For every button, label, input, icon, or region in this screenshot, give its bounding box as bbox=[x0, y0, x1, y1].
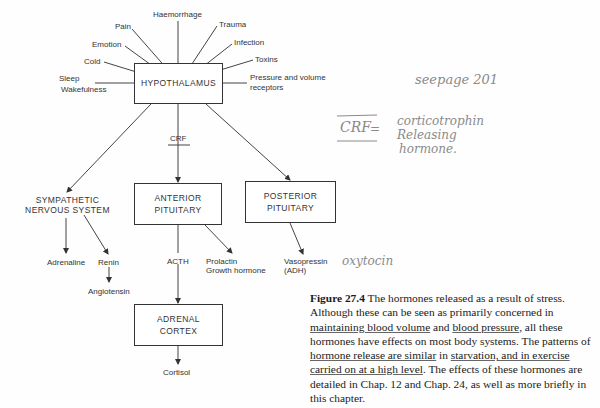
anterior-line2: PITUITARY bbox=[134, 204, 222, 216]
stressor-emotion: Emotion bbox=[92, 39, 121, 50]
caption-underline-3: hormone release are similar bbox=[310, 349, 436, 361]
handwritten-crf-abbrev: CRF bbox=[340, 121, 371, 134]
anterior-pituitary-label: ANTERIOR PITUITARY bbox=[134, 192, 222, 216]
output-adh: (ADH) bbox=[284, 265, 306, 276]
caption-text-4: in bbox=[436, 349, 451, 361]
stressor-infection: Infection bbox=[234, 37, 264, 48]
handwritten-crf-def-line1: corticotrophin bbox=[397, 115, 484, 128]
stressor-toxins: Toxins bbox=[255, 54, 278, 65]
posterior-pituitary-label: POSTERIOR PITUITARY bbox=[245, 190, 336, 214]
stressor-trauma: Trauma bbox=[219, 19, 246, 30]
adrenal-cortex-label: ADRENAL CORTEX bbox=[134, 313, 223, 337]
output-cortisol: Cortisol bbox=[163, 367, 190, 378]
output-growth-hormone: Growth hormone bbox=[206, 265, 266, 276]
caption-text-2: and bbox=[430, 321, 452, 333]
handwritten-oxytocin: oxytocin bbox=[342, 255, 393, 268]
handwritten-crf-def-line2: Releasing bbox=[397, 129, 457, 142]
stressor-cold: Cold bbox=[84, 56, 100, 67]
output-adrenaline: Adrenaline bbox=[47, 257, 85, 268]
output-angiotensin: Angiotensin bbox=[88, 286, 130, 297]
figure-label: Figure 27.4 bbox=[310, 292, 365, 304]
anterior-line1: ANTERIOR bbox=[134, 192, 222, 204]
sympathetic-line2: NERVOUS SYSTEM bbox=[20, 204, 115, 216]
stressor-sleep: Sleep bbox=[59, 73, 79, 84]
handwritten-crf-dash: = bbox=[370, 123, 380, 136]
posterior-line1: POSTERIOR bbox=[245, 190, 336, 202]
stressor-haemorrhage: Haemorrhage bbox=[153, 9, 202, 20]
figure-caption: Figure 27.4 The hormones released as a r… bbox=[310, 291, 600, 405]
stressor-receptors: receptors bbox=[250, 82, 283, 93]
crf-label: CRF bbox=[170, 133, 186, 144]
adrenal-line2: CORTEX bbox=[134, 325, 223, 337]
hypothalamus-label: HYPOTHALAMUS bbox=[134, 77, 223, 89]
textbook-page: Haemorrhage Pain Trauma Emotion Infectio… bbox=[0, 0, 600, 408]
output-acth: ACTH bbox=[167, 256, 189, 267]
stressor-pain: Pain bbox=[115, 21, 131, 32]
adrenal-line1: ADRENAL bbox=[134, 313, 223, 325]
sympathetic-nervous-system-label: SYMPATHETIC NERVOUS SYSTEM bbox=[20, 194, 115, 216]
posterior-line2: PITUITARY bbox=[245, 202, 336, 214]
stressor-wakefulness: Wakefulness bbox=[61, 84, 107, 95]
output-renin: Renin bbox=[98, 257, 119, 268]
handwritten-crf-def-line3: hormone. bbox=[399, 143, 457, 156]
handwritten-see-page: seepage 201 bbox=[415, 73, 498, 86]
caption-underline-1: maintaining blood volume bbox=[310, 321, 430, 333]
caption-underline-2: blood pressure bbox=[452, 321, 519, 333]
